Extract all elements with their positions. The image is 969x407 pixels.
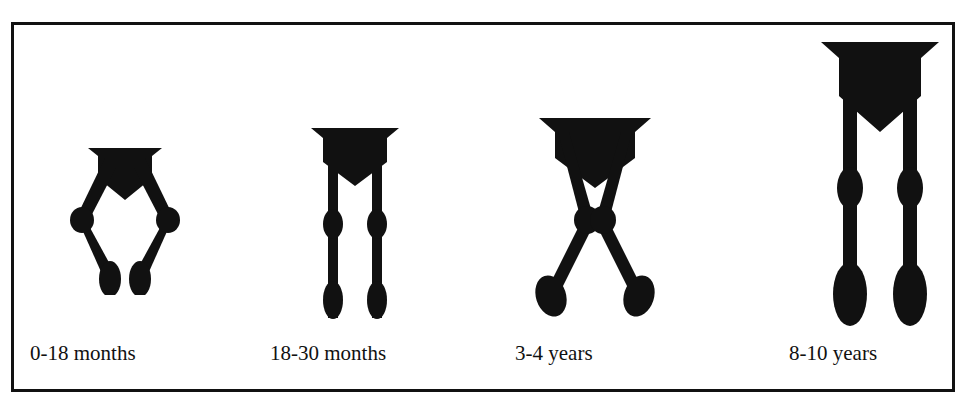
right-foot bbox=[367, 281, 387, 319]
right-knee bbox=[156, 207, 180, 233]
pelvis-shape bbox=[821, 42, 939, 132]
stage-panel-8-10-years: 8-10 years bbox=[745, 0, 969, 407]
bowlegged-legs-figure bbox=[60, 140, 190, 295]
stage-panel-18-30-months: 18-30 months bbox=[250, 0, 495, 407]
right-foot bbox=[893, 262, 927, 326]
stage-caption-18-30-months: 18-30 months bbox=[270, 341, 386, 365]
stage-panel-0-18-months: 0-18 months bbox=[0, 0, 250, 407]
left-knee bbox=[323, 209, 343, 239]
right-knee bbox=[367, 209, 387, 239]
stage-panel-3-4-years: 3-4 years bbox=[495, 0, 745, 407]
left-foot bbox=[323, 281, 343, 319]
stage-caption-0-18-months: 0-18 months bbox=[30, 341, 136, 365]
stage-caption-8-10-years: 8-10 years bbox=[789, 341, 877, 365]
mature-straight-legs-figure bbox=[815, 36, 945, 326]
left-foot bbox=[833, 262, 867, 326]
diagram-root: 0-18 months 18-30 months bbox=[0, 0, 969, 407]
stage-caption-3-4-years: 3-4 years bbox=[515, 341, 593, 365]
right-knee bbox=[897, 167, 923, 209]
right-knee bbox=[590, 206, 616, 234]
pelvis-shape bbox=[539, 118, 651, 188]
left-knee bbox=[70, 207, 94, 233]
pelvis-shape bbox=[311, 128, 399, 186]
knock-knee-legs-figure bbox=[515, 112, 675, 317]
straight-legs-figure bbox=[295, 122, 415, 320]
left-knee bbox=[837, 167, 863, 209]
